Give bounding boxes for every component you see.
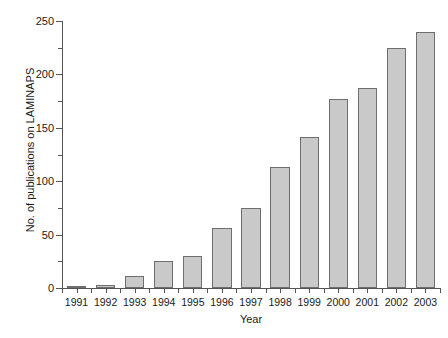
x-axis-minor-tick — [353, 288, 354, 293]
bar — [241, 208, 260, 288]
x-axis-minor-tick — [382, 288, 383, 293]
bar — [125, 276, 144, 288]
y-axis-tick — [56, 74, 62, 75]
bar-chart-figure: No. of publications on LAMINAPS 05010015… — [0, 0, 448, 338]
x-axis-title: Year — [62, 313, 440, 326]
y-axis-tick-label: 200 — [36, 69, 54, 80]
x-axis-minor-tick — [411, 288, 412, 293]
x-axis-minor-tick — [440, 288, 441, 293]
x-axis-tick-label: 1996 — [210, 296, 233, 308]
y-axis-minor-tick — [58, 101, 62, 102]
x-axis-tick-label: 1998 — [268, 296, 291, 308]
x-axis-tick-label: 1997 — [239, 296, 262, 308]
y-axis-minor-tick — [58, 155, 62, 156]
x-axis-tick-label: 1999 — [297, 296, 320, 308]
bar — [183, 256, 202, 288]
plot-area: 0501001502002501991199219931994199519961… — [62, 21, 440, 288]
bar — [358, 88, 377, 288]
bar — [300, 137, 319, 288]
y-axis-minor-tick — [58, 261, 62, 262]
y-axis-tick — [56, 21, 62, 22]
x-axis-tick — [222, 288, 223, 293]
x-axis-tick-label: 2003 — [414, 296, 437, 308]
y-axis-tick-label: 150 — [36, 122, 54, 133]
y-axis-tick-label: 0 — [48, 283, 54, 294]
x-axis-tick — [106, 288, 107, 293]
bar — [154, 261, 173, 288]
x-axis-minor-tick — [295, 288, 296, 293]
x-axis-tick — [338, 288, 339, 293]
y-axis-tick-label: 100 — [36, 176, 54, 187]
y-axis-tick — [56, 235, 62, 236]
y-axis-minor-tick — [58, 208, 62, 209]
x-axis-tick-label: 1995 — [181, 296, 204, 308]
x-axis-minor-tick — [236, 288, 237, 293]
y-axis-tick-label: 250 — [36, 16, 54, 27]
x-axis-tick — [193, 288, 194, 293]
x-axis-tick-label: 1992 — [94, 296, 117, 308]
y-axis-tick — [56, 128, 62, 129]
x-axis-tick — [251, 288, 252, 293]
x-axis-minor-tick — [62, 288, 63, 293]
x-axis-minor-tick — [120, 288, 121, 293]
bar — [212, 228, 231, 288]
x-axis-tick — [396, 288, 397, 293]
y-axis-tick — [56, 181, 62, 182]
x-axis-tick — [280, 288, 281, 293]
x-axis-tick — [425, 288, 426, 293]
x-axis-tick-label: 1991 — [65, 296, 88, 308]
x-axis-tick-label: 1994 — [152, 296, 175, 308]
x-axis-minor-tick — [207, 288, 208, 293]
x-axis-tick-label: 1993 — [123, 296, 146, 308]
x-axis-tick-label: 2001 — [356, 296, 379, 308]
bar — [416, 32, 435, 288]
x-axis-minor-tick — [149, 288, 150, 293]
x-axis-tick — [135, 288, 136, 293]
bar — [387, 48, 406, 288]
x-axis-tick — [164, 288, 165, 293]
x-axis-minor-tick — [91, 288, 92, 293]
x-axis-tick-label: 2002 — [385, 296, 408, 308]
x-axis-minor-tick — [324, 288, 325, 293]
y-axis-minor-tick — [58, 48, 62, 49]
bar — [329, 99, 348, 288]
bar — [270, 167, 289, 288]
x-axis-minor-tick — [266, 288, 267, 293]
y-axis-title: No. of publications on LAMINAPS — [22, 5, 38, 295]
x-axis-tick — [77, 288, 78, 293]
x-axis-tick-label: 2000 — [327, 296, 350, 308]
x-axis-tick — [309, 288, 310, 293]
y-axis-tick-label: 50 — [42, 229, 54, 240]
x-axis-minor-tick — [178, 288, 179, 293]
x-axis-tick — [367, 288, 368, 293]
